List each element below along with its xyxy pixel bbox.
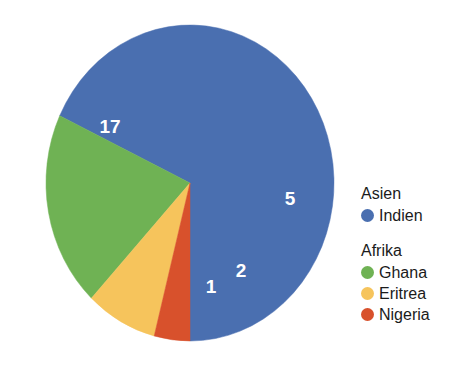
legend-item-ghana[interactable]: Ghana: [361, 262, 466, 283]
pie-slice-value-ghana: 5: [285, 188, 296, 209]
pie-chart: 17521 Asien Indien Afrika Ghana Eritrea …: [0, 0, 466, 376]
legend-swatch-eritrea-icon: [361, 287, 374, 300]
legend-swatch-indien-icon: [361, 209, 374, 222]
legend-swatch-nigeria-icon: [361, 308, 374, 321]
legend-item-eritrea[interactable]: Eritrea: [361, 283, 466, 304]
legend-swatch-ghana-icon: [361, 266, 374, 279]
legend-label-eritrea: Eritrea: [379, 283, 426, 304]
pie-slice-value-nigeria: 1: [206, 276, 217, 297]
chart-legend: Asien Indien Afrika Ghana Eritrea Nigeri…: [361, 183, 466, 325]
pie-slice-value-indien: 17: [99, 116, 120, 137]
legend-label-indien: Indien: [379, 205, 423, 226]
pie-slice-value-eritrea: 2: [236, 260, 247, 281]
pie-slices: [46, 25, 334, 341]
legend-group-afrika: Afrika Ghana Eritrea Nigeria: [361, 240, 466, 325]
legend-label-ghana: Ghana: [379, 262, 427, 283]
legend-heading-asien: Asien: [361, 183, 466, 204]
legend-item-nigeria[interactable]: Nigeria: [361, 304, 466, 325]
legend-label-nigeria: Nigeria: [379, 304, 430, 325]
legend-heading-afrika: Afrika: [361, 240, 466, 261]
legend-group-asien: Asien Indien: [361, 183, 466, 226]
legend-item-indien[interactable]: Indien: [361, 205, 466, 226]
